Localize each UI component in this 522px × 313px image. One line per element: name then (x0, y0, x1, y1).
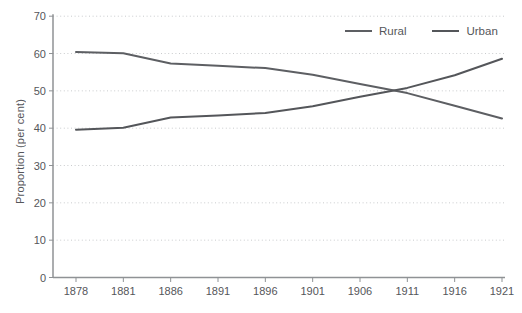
x-axis-tick-label: 1906 (348, 285, 372, 297)
legend-line-urban-swatch (432, 30, 459, 32)
plot-area: 0102030405060701878188118861891189619011… (0, 0, 522, 313)
y-axis-tick-label: 40 (34, 122, 46, 134)
legend-line-rural-swatch (345, 30, 372, 32)
y-axis-tick-label: 60 (34, 48, 46, 60)
line-chart: 0102030405060701878188118861891189619011… (0, 0, 522, 313)
y-axis-tick-label: 0 (40, 272, 46, 284)
x-axis-tick-label: 1901 (300, 285, 324, 297)
series-line-urban (76, 59, 502, 130)
x-axis-tick-label: 1921 (490, 285, 514, 297)
x-axis-tick-label: 1916 (442, 285, 466, 297)
x-axis-tick-label: 1881 (111, 285, 135, 297)
y-axis-title: Proportion (per cent) (14, 96, 26, 206)
y-axis-tick-label: 70 (34, 10, 46, 22)
x-axis-tick-label: 1878 (64, 285, 88, 297)
x-axis-tick-label: 1896 (253, 285, 277, 297)
x-axis-tick-label: 1891 (206, 285, 230, 297)
legend-label-rural: Rural (379, 25, 406, 37)
y-axis-tick-label: 50 (34, 85, 46, 97)
y-axis-tick-label: 10 (34, 234, 46, 246)
y-axis-tick-label: 20 (34, 197, 46, 209)
series-line-rural (76, 52, 502, 119)
legend-item-rural: Rural (345, 25, 406, 37)
y-axis-tick-label: 30 (34, 160, 46, 172)
x-axis-tick-label: 1911 (396, 285, 420, 297)
x-axis-tick-label: 1886 (158, 285, 182, 297)
legend: Rural Urban (345, 25, 498, 37)
legend-item-urban: Urban (432, 25, 497, 37)
legend-label-urban: Urban (466, 25, 497, 37)
